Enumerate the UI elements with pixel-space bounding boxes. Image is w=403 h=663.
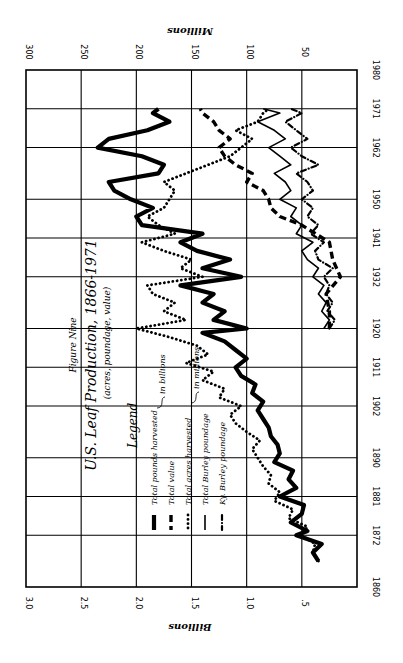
legend-label: Total acres harvested (184, 418, 193, 505)
billions-tick-label: 1.5 (190, 597, 199, 610)
year-tick-label: 1962 (371, 137, 380, 157)
millions-tick-label: 300 (24, 44, 33, 59)
legend-group-label: in millions (192, 347, 201, 389)
billions-tick-label: 2.0 (134, 597, 143, 610)
year-tick-label: 1860 (371, 577, 380, 597)
figure-label: Figure Nine (68, 317, 78, 373)
chart: 1860187218811890190219111920193219411950… (0, 0, 403, 663)
billions-tick-label: 2.5 (79, 597, 88, 610)
year-tick-label: 1941 (371, 228, 380, 248)
year-tick-label: 1980 (371, 60, 380, 80)
year-tick-label: 1950 (371, 189, 380, 209)
legend-group-brace (191, 392, 199, 403)
axis-label-billions: Billions (168, 622, 213, 633)
millions-tick-label: 50 (300, 47, 309, 57)
chart-subtitle: (acres, poundage, value) (102, 286, 112, 399)
year-tick-label: 1932 (371, 267, 380, 287)
chart-title: U.S. Leaf Production, 1866-1971 (83, 239, 99, 470)
billions-tick-label: .5 (300, 599, 309, 607)
legend-label: Total Burley poundage (201, 413, 210, 505)
year-tick-label: 1872 (371, 525, 380, 545)
millions-tick-label: 250 (79, 44, 88, 59)
axis-label-millions: Millions (167, 26, 214, 37)
legend-label: Total value (167, 460, 176, 505)
year-tick-label: 1902 (371, 396, 380, 416)
millions-tick-label: 100 (245, 44, 254, 59)
series-total-burley-poundage (258, 109, 330, 329)
year-tick-label: 1890 (371, 448, 380, 468)
year-tick-label: 1881 (371, 486, 380, 506)
legend-title: Legend (126, 402, 140, 449)
year-tick-label: 1911 (371, 357, 380, 377)
millions-tick-label: 150 (190, 44, 199, 59)
legend: Total pounds harvestedTotal valueTotal a… (150, 347, 227, 530)
legend-group-label: in billions (158, 354, 167, 394)
legend-label: Total pounds harvested (150, 410, 159, 505)
billions-tick-label: 3.0 (24, 597, 33, 610)
millions-tick-label: 200 (134, 44, 143, 59)
year-tick-label: 1971 (371, 99, 380, 119)
legend-label: Ky. Burley poundage (218, 422, 227, 506)
year-tick-label: 1920 (371, 318, 380, 338)
billions-tick-label: 1.0 (245, 597, 254, 610)
series-total-acres-harvested (136, 109, 318, 561)
title-block: Figure Nine U.S. Leaf Production, 1866-1… (68, 239, 140, 470)
